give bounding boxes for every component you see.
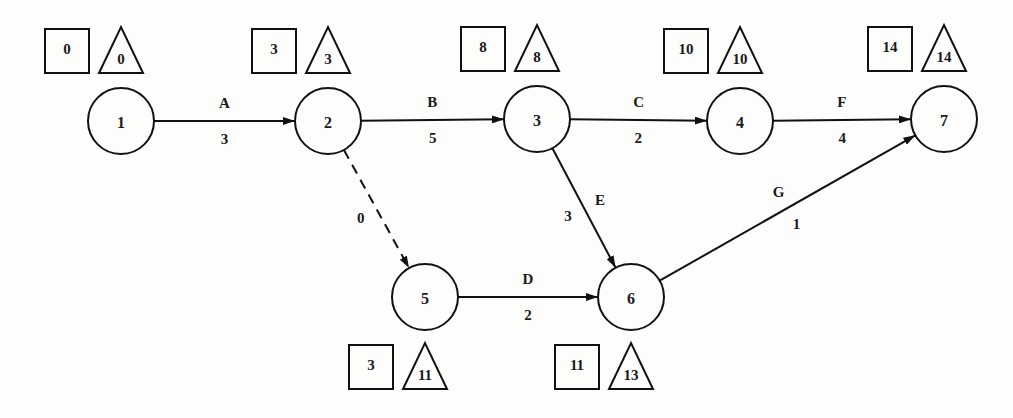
node-number: 2 <box>324 114 332 131</box>
activity-duration-label: 1 <box>793 216 801 232</box>
node-number: 6 <box>627 290 635 307</box>
edge-4-7: F4 <box>773 94 911 146</box>
activity-name-label: A <box>219 95 230 111</box>
arrow-line <box>660 135 916 280</box>
edge-2-3: B5 <box>361 94 504 146</box>
latest-time-value: 13 <box>624 367 639 383</box>
activity-name-label: F <box>837 94 846 110</box>
activity-name-label: G <box>773 184 785 200</box>
edge-6-7: G1 <box>660 135 916 280</box>
edge-3-6: E3 <box>552 148 615 268</box>
earliest-time-value: 10 <box>679 41 694 57</box>
arrow-line <box>570 119 707 120</box>
activity-name-label: E <box>595 192 605 208</box>
latest-time-value: 3 <box>324 51 332 67</box>
latest-time-value: 14 <box>937 49 953 65</box>
activity-duration-label: 3 <box>564 208 572 224</box>
nodes-layer: 1002333884101071414531161113 <box>45 25 977 389</box>
event-node-3: 388 <box>461 25 570 152</box>
edge-3-4: C2 <box>570 94 707 146</box>
earliest-time-value: 11 <box>570 357 584 373</box>
activity-duration-label: 5 <box>429 130 437 146</box>
edge-5-6: D2 <box>458 271 598 323</box>
node-number: 1 <box>117 114 125 131</box>
activity-name-label: D <box>523 271 534 287</box>
event-node-4: 41010 <box>664 27 773 154</box>
activity-duration-label: 2 <box>524 307 532 323</box>
edge-2-5: 0 <box>344 150 409 268</box>
network-diagram: A3B5C2F40D2E3G1 100233388410107141453116… <box>0 0 1013 418</box>
event-node-6: 61113 <box>555 264 664 389</box>
earliest-time-value: 3 <box>367 357 375 373</box>
latest-time-value: 10 <box>733 51 748 67</box>
latest-time-value: 8 <box>533 49 541 65</box>
activity-duration-label: 3 <box>221 131 229 147</box>
activity-duration-label: 0 <box>357 210 365 226</box>
activity-name-label: B <box>427 94 437 110</box>
event-node-5: 5311 <box>349 264 458 389</box>
activity-duration-label: 4 <box>838 130 846 146</box>
edge-1-2: A3 <box>154 95 295 147</box>
event-node-2: 233 <box>252 27 361 154</box>
node-number: 7 <box>940 112 948 129</box>
latest-time-value: 11 <box>418 367 432 383</box>
diagram-canvas: A3B5C2F40D2E3G1 100233388410107141453116… <box>0 0 1013 418</box>
latest-time-value: 0 <box>117 51 125 67</box>
earliest-time-value: 8 <box>479 39 487 55</box>
arrow-line <box>344 150 409 268</box>
arrow-line <box>552 148 615 268</box>
activity-name-label: C <box>633 94 644 110</box>
node-number: 4 <box>736 114 744 131</box>
earliest-time-value: 0 <box>63 41 71 57</box>
activity-duration-label: 2 <box>635 130 643 146</box>
event-node-7: 71414 <box>868 25 977 152</box>
arrow-line <box>361 119 504 120</box>
node-number: 5 <box>421 290 429 307</box>
earliest-time-value: 3 <box>270 41 278 57</box>
event-node-1: 100 <box>45 27 154 154</box>
earliest-time-value: 14 <box>883 39 899 55</box>
arrow-line <box>773 119 911 120</box>
node-number: 3 <box>533 112 541 129</box>
